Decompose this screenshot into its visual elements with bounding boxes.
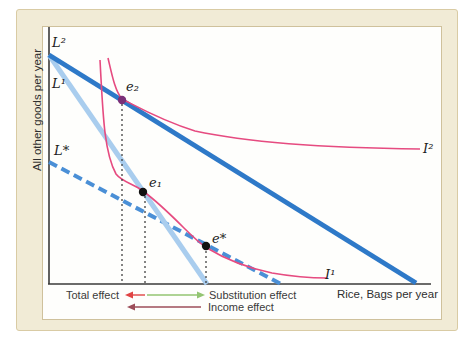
label-l2: L² (52, 36, 66, 49)
label-estar: e* (212, 232, 226, 245)
substitution-effect-label: Substitution effect (209, 289, 296, 301)
point-e2 (118, 96, 126, 104)
income-effect-label: Income effect (208, 301, 274, 313)
label-e1: e₁ (149, 176, 162, 189)
point-e1 (139, 188, 147, 196)
x-axis-label: Rice, Bags per year (337, 288, 438, 300)
label-i2: I² (423, 142, 433, 155)
label-lstar: L* (54, 144, 69, 157)
point-estar (202, 242, 210, 250)
indifference-curve-i2 (108, 58, 420, 149)
total-effect-label: Total effect (66, 289, 119, 301)
substitution-effect-arrow (147, 292, 205, 299)
budget-line-l2 (49, 55, 416, 283)
plot-canvas (0, 0, 464, 337)
label-l1: L¹ (52, 77, 66, 90)
label-e2: e₂ (126, 80, 139, 93)
total-effect-arrow (125, 292, 145, 299)
figure-photo: All other goods per year Rice, Bags per … (0, 0, 464, 337)
y-axis-label: All other goods per year (31, 30, 45, 190)
label-i1: I¹ (325, 268, 335, 281)
income-effect-arrow (127, 304, 201, 311)
